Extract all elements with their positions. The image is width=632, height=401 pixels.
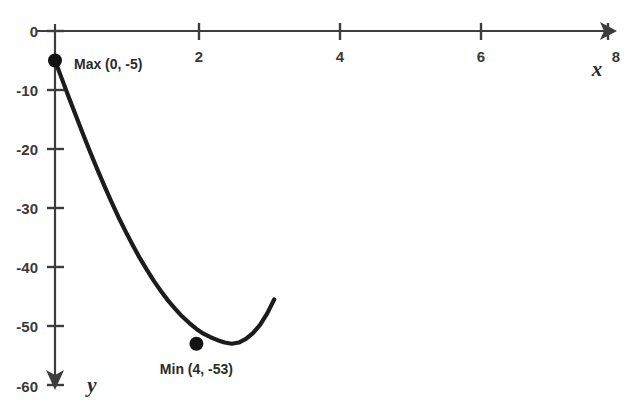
min-point-label: Min (4, -53): [160, 361, 233, 377]
y-tick-label-0: 0: [30, 23, 38, 40]
y-tick-label-minus-50: -50: [16, 318, 38, 335]
x-axis-label: x: [591, 57, 603, 81]
x-tick-label-8: 8: [612, 48, 620, 65]
min-point-marker: [189, 337, 203, 351]
x-tick-label-4: 4: [336, 48, 345, 65]
y-axis-label: y: [84, 373, 97, 397]
y-tick-label-minus-40: -40: [16, 259, 38, 276]
max-point-label: Max (0, -5): [74, 56, 142, 72]
graph-canvas: 2 4 6 8 0 -10 -20 -30 -40 -50 -60 x y Ma…: [0, 0, 632, 401]
y-tick-label-minus-10: -10: [16, 82, 38, 99]
function-curve: [55, 61, 274, 344]
y-tick-label-minus-60: -60: [16, 378, 38, 395]
max-point-marker: [48, 54, 62, 68]
graph-figure: 2 4 6 8 0 -10 -20 -30 -40 -50 -60 x y Ma…: [0, 0, 632, 401]
y-tick-label-minus-30: -30: [16, 200, 38, 217]
x-tick-label-2: 2: [195, 48, 203, 65]
y-tick-label-minus-20: -20: [16, 141, 38, 158]
x-tick-label-6: 6: [477, 48, 485, 65]
